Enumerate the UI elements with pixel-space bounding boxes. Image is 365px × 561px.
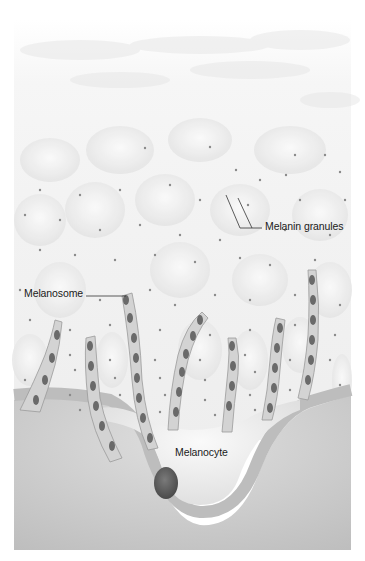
label-melanocyte: Melanocyte bbox=[175, 446, 228, 458]
label-melanin-granules: Melanin granules bbox=[265, 220, 343, 232]
diagram-artwork bbox=[0, 0, 365, 561]
melanocyte-diagram: Melanin granules Melanosome Melanocyte bbox=[0, 0, 365, 561]
label-melanosome: Melanosome bbox=[24, 287, 83, 299]
melanocyte-nucleus bbox=[154, 467, 178, 499]
